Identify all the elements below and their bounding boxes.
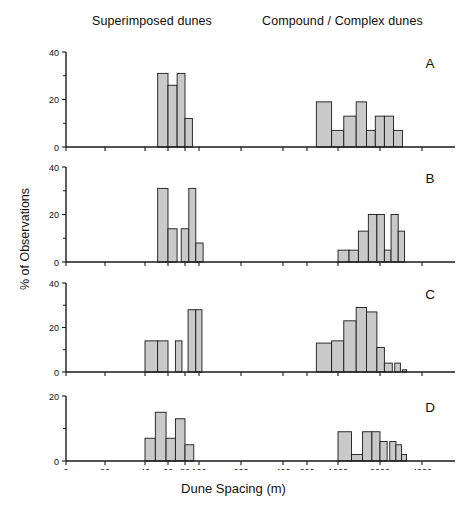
x-axis-tick-label: 0 [63,467,68,470]
histogram-bar [363,432,372,461]
histogram-bar [377,215,384,263]
y-axis-tick-label: 20 [49,392,59,402]
histogram-bar [158,73,168,147]
y-axis-tick-label: 0 [54,368,59,378]
histogram-bar [375,116,384,147]
chart-panel-d: 020D020406080100200400600100020004000 [49,392,455,471]
histogram-bar [175,341,182,372]
histogram-bar [358,231,368,262]
histogram-bar [395,363,401,372]
histogram-bar [384,116,393,147]
histogram-bar [175,419,185,461]
histogram-bar [196,310,202,372]
y-axis-tick-label: 20 [49,323,59,333]
chart-panel-b: 02040B [49,163,455,268]
histogram-bar [372,432,380,461]
histogram-bar [145,341,158,372]
x-axis-tick-label: 60 [163,467,173,470]
histogram-bar [158,188,168,262]
panel-label-b: B [425,171,434,186]
histogram-bar [344,116,356,147]
figure-root: Superimposed dunes Compound / Complex du… [0,0,467,509]
histogram-bar [356,102,366,147]
histogram-bar [185,119,192,148]
histogram-bar [316,102,331,147]
x-axis-tick-label: 4000 [412,467,432,470]
panels-svg: 02040A02040B02040C020D020406080100200400… [0,0,467,470]
histogram-bar [352,455,363,462]
histogram-bar [344,321,356,372]
histogram-bar [316,343,331,372]
histogram-bar [332,341,344,372]
y-axis-tick-label: 0 [54,143,59,153]
histogram-bar [155,412,166,461]
histogram-bar [401,455,406,462]
histogram-bar [158,341,168,372]
panel-label-c: C [425,287,435,302]
x-axis-tick-label: 80 [180,467,190,470]
histogram-bar [391,215,398,263]
histogram-bar [349,250,358,262]
histogram-bar [384,250,391,262]
y-axis-tick-label: 0 [54,457,59,467]
histogram-bar [377,348,384,372]
histogram-bar [177,73,185,147]
x-axis-tick-label: 600 [299,467,314,470]
x-axis-tick-label: 200 [233,467,248,470]
x-axis-tick-label: 40 [140,467,150,470]
y-axis-tick-label: 40 [49,48,59,58]
x-axis-tick-label: 1000 [328,467,348,470]
y-axis-tick-label: 0 [54,258,59,268]
histogram-bar [366,130,375,147]
histogram-bar [145,438,155,461]
histogram-bar [366,312,376,372]
histogram-bar [384,363,392,372]
panel-label-d: D [425,400,435,415]
histogram-bar [368,215,377,263]
histogram-bar [398,231,404,262]
y-axis-tick-label: 40 [49,163,59,173]
column-header-compound: Compound / Complex dunes [262,14,423,28]
chart-panel-c: 02040C [49,279,455,378]
histogram-bar [168,85,177,147]
x-axis-tick-label: 100 [191,467,206,470]
histogram-bar [181,229,189,262]
column-header-superimposed: Superimposed dunes [92,14,212,28]
histogram-bar [168,229,177,262]
x-axis-tick-label: 2000 [370,467,390,470]
histogram-bar [394,130,403,147]
y-axis-tick-label: 40 [49,279,59,289]
x-axis-tick-label: 20 [100,467,110,470]
histogram-bar [390,442,396,462]
histogram-bar [332,130,344,147]
x-axis-label: Dune Spacing (m) [0,481,467,496]
histogram-bar [356,307,366,372]
histogram-bar [196,243,203,262]
histogram-bar [188,310,196,372]
histogram-bar [380,442,387,462]
histogram-bar [338,432,352,461]
y-axis-tick-label: 20 [49,210,59,220]
y-axis-label: % of Observations [18,154,32,324]
histogram-bar [396,445,402,461]
y-axis-tick-label: 20 [49,95,59,105]
histogram-bar [185,445,194,461]
chart-panel-a: 02040A [49,48,455,153]
panel-label-a: A [425,56,434,71]
histogram-bar [166,438,175,461]
histogram-bar [189,188,196,262]
histogram-bar [338,250,349,262]
x-axis-tick-label: 400 [275,467,290,470]
